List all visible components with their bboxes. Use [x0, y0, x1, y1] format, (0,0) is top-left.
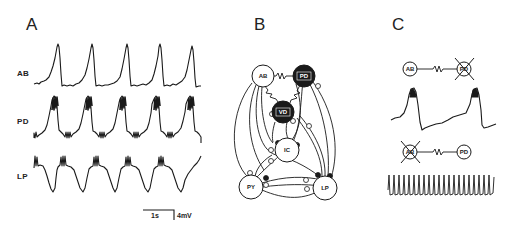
svg-text:PD: PD [300, 73, 309, 79]
panel-c-top-pair: AB PD [403, 58, 474, 80]
scale-voltage-label: 4mV [177, 212, 192, 219]
node-ic: IC [275, 138, 299, 162]
scale-bar: 1s 4mV [143, 210, 192, 220]
svg-text:PD: PD [460, 149, 469, 155]
ab-trace [34, 44, 201, 87]
panel-c-burst-trace [391, 88, 496, 130]
svg-text:AB: AB [259, 73, 268, 79]
svg-text:LP: LP [321, 185, 329, 191]
node-ab: AB [252, 65, 274, 87]
node-pd: PD [293, 65, 315, 87]
svg-text:VD: VD [279, 109, 288, 115]
node-vd: VD [272, 101, 294, 123]
svg-text:IC: IC [284, 147, 291, 153]
lp-trace [34, 156, 201, 192]
panel-c-bottom-pair: AB PD [401, 141, 471, 163]
node-lp: LP [313, 176, 337, 200]
figure-canvas: 1s 4mV [0, 0, 513, 232]
scale-time-label: 1s [151, 212, 159, 219]
svg-text:PY: PY [247, 184, 255, 190]
node-py: PY [239, 175, 263, 199]
pd-trace [34, 96, 201, 143]
svg-text:AB: AB [406, 66, 415, 72]
panel-c-tonic-trace [388, 175, 494, 195]
